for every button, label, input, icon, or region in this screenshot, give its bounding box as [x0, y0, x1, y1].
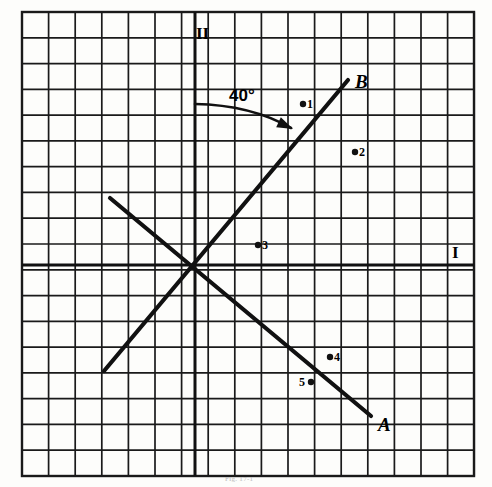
point-1-label: 1	[307, 98, 313, 110]
figure-caption: Fig. 17-1	[225, 476, 253, 483]
line-b-label: B	[355, 72, 368, 91]
point-5	[308, 379, 314, 385]
point-3-label: 3	[262, 239, 268, 251]
point-2-label: 2	[359, 146, 365, 158]
graph-figure	[0, 0, 492, 487]
figure-container: II I 40° B A 12345 Fig. 17-1	[0, 0, 492, 487]
point-3	[255, 242, 261, 248]
point-4-label: 4	[334, 351, 340, 363]
point-4	[327, 354, 333, 360]
axis-ii-label: II	[196, 25, 209, 42]
point-2	[352, 149, 358, 155]
point-1	[300, 101, 306, 107]
axis-i-label: I	[452, 244, 459, 261]
angle-label: 40°	[229, 87, 255, 104]
line-a-label: A	[378, 415, 391, 434]
point-5-label: 5	[299, 376, 305, 388]
